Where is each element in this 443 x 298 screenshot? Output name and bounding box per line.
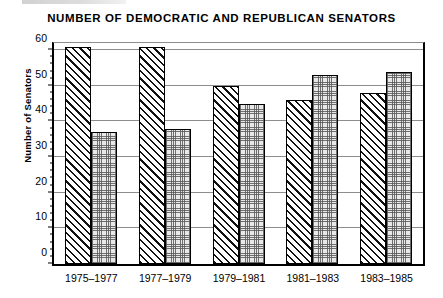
y-minor-tick-16 [50,205,54,206]
y-minor-tick-14 [50,213,54,214]
y-minor-tick-52 [50,77,54,78]
y-minor-tick-32 [50,148,54,149]
y-tick-label-30: 30 [35,139,47,151]
bar-democratic-1983–1985 [360,93,386,264]
bar-republican-1979–1981 [239,104,265,264]
y-minor-tick-2 [50,255,54,256]
y-minor-tick-26 [50,170,54,171]
y-tick-20 [48,191,54,192]
y-tick-label-40: 40 [35,103,47,115]
bar-republican-1977–1979 [165,129,191,264]
y-minor-tick-24 [50,177,54,178]
bar-republican-1983–1985 [386,72,412,264]
x-tick-label-1977–1979: 1977–1979 [139,272,192,284]
y-minor-tick-56 [50,63,54,64]
y-minor-tick-34 [50,141,54,142]
gridline-50 [54,85,423,86]
y-tick-label-20: 20 [35,175,47,187]
plot-area: 0102030405060 [52,42,425,266]
y-minor-tick-38 [50,127,54,128]
y-minor-tick-58 [50,56,54,57]
bar-republican-1975–1977 [91,132,117,264]
y-minor-tick-4 [50,248,54,249]
bar-republican-1981–1983 [312,75,338,264]
y-minor-tick-46 [50,99,54,100]
bar-democratic-1981–1983 [286,100,312,264]
x-tick-label-1983–1985: 1983–1985 [360,272,413,284]
bar-chart-figure: NUMBER OF DEMOCRATIC AND REPUBLICAN SENA… [0,0,443,298]
y-tick-50 [48,84,54,85]
chart-title: NUMBER OF DEMOCRATIC AND REPUBLICAN SENA… [0,12,443,24]
y-tick-30 [48,156,54,157]
y-minor-tick-42 [50,113,54,114]
gridline-60 [54,49,423,50]
x-tick-label-1975–1977: 1975–1977 [65,272,118,284]
y-tick-0 [48,263,54,264]
y-tick-label-10: 10 [35,210,47,222]
y-minor-tick-54 [50,70,54,71]
y-minor-tick-48 [50,91,54,92]
y-tick-10 [48,227,54,228]
y-minor-tick-36 [50,134,54,135]
y-minor-tick-28 [50,163,54,164]
bar-democratic-1977–1979 [139,47,165,264]
bar-democratic-1975–1977 [65,47,91,264]
y-minor-tick-12 [50,220,54,221]
y-minor-tick-6 [50,241,54,242]
y-minor-tick-22 [50,184,54,185]
y-tick-label-60: 60 [35,32,47,44]
y-tick-label-0: 0 [41,246,47,258]
y-tick-label-50: 50 [35,68,47,80]
x-tick-label-1979–1981: 1979–1981 [213,272,266,284]
y-tick-60 [48,49,54,50]
y-axis-title: Number of Senators [22,56,33,176]
y-minor-tick-18 [50,198,54,199]
y-tick-40 [48,120,54,121]
bar-democratic-1979–1981 [213,86,239,264]
y-minor-tick-44 [50,106,54,107]
x-tick-label-1981–1983: 1981–1983 [287,272,340,284]
y-minor-tick-8 [50,234,54,235]
